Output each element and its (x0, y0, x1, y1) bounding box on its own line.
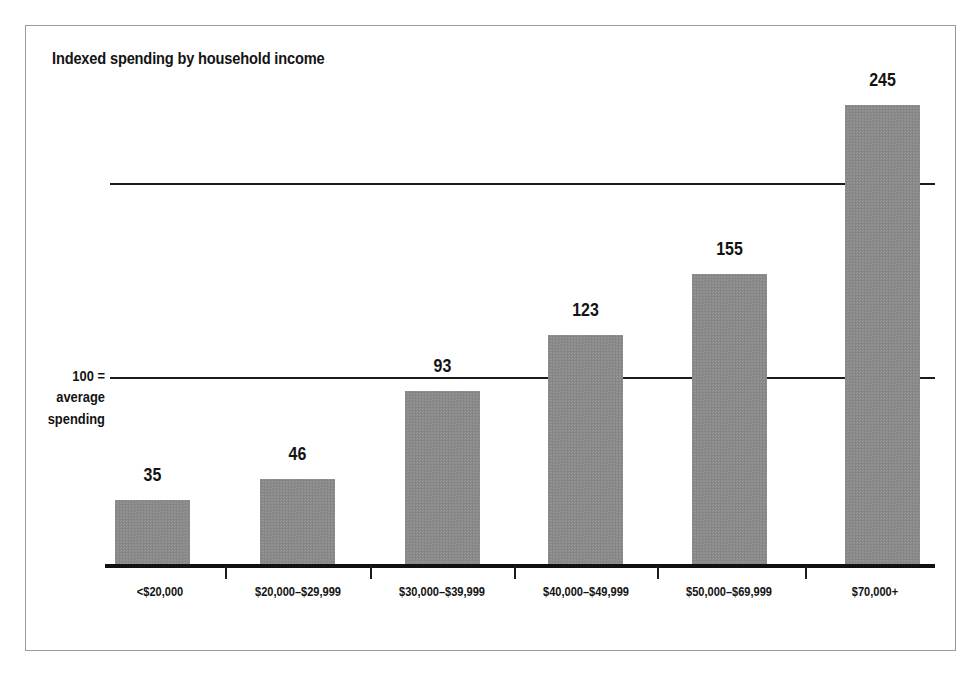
axis-tick-3 (514, 566, 516, 579)
x-axis-label-6: $70,000+ (824, 584, 926, 599)
plot-area: 35 46 93 123 155 245 <$20,000 $20,000–$2… (0, 0, 980, 679)
bar-value-4: 123 (554, 299, 617, 321)
y-axis-annotation: 100 = average spending (0, 365, 105, 429)
y-axis-annotation-line-3: spending (0, 408, 105, 429)
x-axis-label-4: $40,000–$49,999 (531, 584, 642, 599)
bar-value-2: 46 (266, 443, 329, 465)
bar-value-6: 245 (851, 69, 914, 91)
axis-tick-4 (657, 566, 659, 579)
axis-tick-1 (225, 566, 227, 579)
y-axis-annotation-line-2: average (0, 386, 105, 407)
gridline-200 (110, 183, 935, 185)
y-axis-annotation-line-1: 100 = (0, 365, 105, 386)
bar-1 (115, 500, 190, 566)
gridline-100 (110, 377, 935, 379)
bar-4 (548, 335, 623, 566)
axis-tick-2 (370, 566, 372, 579)
bar-3 (405, 391, 480, 566)
chart-figure: Indexed spending by household income 35 … (0, 0, 980, 679)
x-axis-line (105, 564, 935, 568)
bar-value-5: 155 (698, 238, 761, 260)
bar-value-3: 93 (411, 355, 474, 377)
bar-2 (260, 479, 335, 566)
bar-5 (692, 274, 767, 566)
x-axis-label-1: <$20,000 (109, 584, 211, 599)
x-axis-label-5: $50,000–$69,999 (674, 584, 785, 599)
bar-6 (845, 105, 920, 566)
axis-tick-5 (805, 566, 807, 579)
x-axis-label-2: $20,000–$29,999 (243, 584, 354, 599)
bar-value-1: 35 (121, 464, 184, 486)
x-axis-label-3: $30,000–$39,999 (387, 584, 498, 599)
